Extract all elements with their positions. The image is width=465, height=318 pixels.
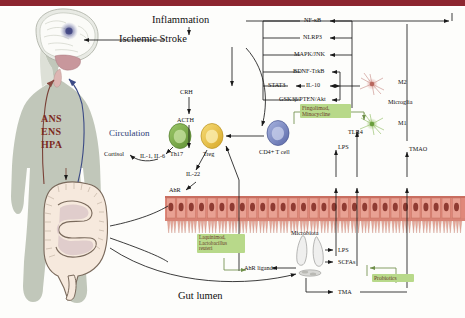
label-m1: M1 bbox=[398, 119, 407, 126]
cd4-t-cell bbox=[267, 121, 289, 146]
label-ahr: AhR bbox=[169, 186, 181, 193]
label-microglia: Microglia bbox=[388, 98, 412, 105]
label-pathway-bdnf-trkb: BDNF-TrkB bbox=[293, 67, 324, 74]
label-gut-lumen: Gut lumen bbox=[178, 290, 223, 301]
intestine-illustration bbox=[44, 182, 107, 300]
label-il1-il6: IL-1, IL-6 bbox=[140, 152, 165, 159]
label-inflammation: Inflammation bbox=[152, 14, 209, 25]
label-th17: Th17 bbox=[170, 150, 183, 157]
label-scfas: SCFAs bbox=[338, 258, 355, 265]
epithelial-cells-layer bbox=[167, 198, 461, 218]
treatment-line-2: Minocycline bbox=[302, 111, 349, 117]
treatment-box-laquinimod-lactobacillus: Laquinimod, Lactobacillus reuteri bbox=[197, 234, 245, 253]
label-il10: IL-10 bbox=[306, 81, 320, 88]
label-tlr4: TLR4 bbox=[348, 128, 363, 135]
artwork-layer bbox=[0, 0, 465, 318]
label-pathway-nlrp3: NLRP3 bbox=[303, 33, 322, 40]
label-pathway-stat3: STAT3 bbox=[268, 81, 285, 88]
label-acth: ACTH bbox=[177, 116, 194, 123]
label-circulation: Circulation bbox=[109, 128, 150, 138]
figure-canvas: Inflammation Ischemic Stroke ANS ENS HPA… bbox=[0, 0, 465, 318]
label-tmao: TMAO bbox=[409, 145, 427, 152]
treg-cell bbox=[201, 124, 223, 149]
treatment-box-fingolimod-minocycline: Fingolimod, Minocycline bbox=[300, 104, 351, 118]
label-cortisol: Cortisol bbox=[104, 150, 124, 157]
label-hpa: HPA bbox=[41, 139, 62, 150]
microbiota-illustration bbox=[297, 236, 324, 276]
label-ens: ENS bbox=[41, 126, 61, 137]
label-cd4-t-cell: CD4+ T cell bbox=[259, 148, 290, 155]
label-pathway-nfkb: NF-κB bbox=[304, 16, 321, 23]
m2-microglia bbox=[360, 73, 384, 95]
label-ahr-ligands: AhR ligands bbox=[244, 264, 275, 271]
treatment-box-probiotics: Probiotics bbox=[372, 274, 414, 282]
label-ans: ANS bbox=[41, 113, 62, 124]
label-pathway-gsk3b-pten-akt: GSK3β/PTEN/Akt bbox=[279, 95, 326, 102]
label-il22: IL-22 bbox=[186, 170, 200, 177]
label-crh: CRH bbox=[180, 88, 193, 95]
treatment-line-3: reuteri bbox=[199, 246, 243, 252]
label-microbiota: Microbiota bbox=[291, 229, 319, 236]
label-ischemic-stroke: Ischemic Stroke bbox=[119, 33, 187, 44]
label-lps: LPS bbox=[338, 246, 349, 253]
label-pathway-mapk-jnk: MAPK/JNK bbox=[294, 50, 325, 57]
th17-cell bbox=[169, 124, 191, 149]
label-tma: TMA bbox=[338, 288, 352, 295]
label-m2: M2 bbox=[398, 78, 407, 85]
label-lps-upper: LPS bbox=[338, 143, 349, 150]
treatment-line-1: Probiotics bbox=[374, 275, 412, 281]
label-treg: Treg bbox=[203, 150, 214, 157]
